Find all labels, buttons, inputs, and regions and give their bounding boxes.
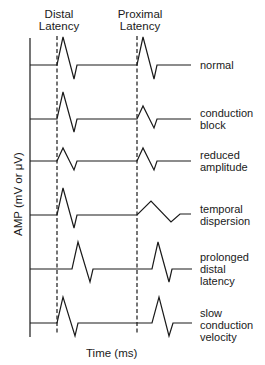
row-label-reduced-amplitude: reduced amplitude — [200, 149, 248, 173]
row-label-temporal-dispersion: temporal dispersion — [200, 203, 250, 227]
trace-slow-conduction-velocity — [30, 297, 192, 336]
distal-label-line1: Distal — [34, 8, 84, 20]
trace-reduced-amplitude — [30, 148, 191, 170]
row-label-line: dispersion — [200, 215, 250, 227]
row-label-line: conduction — [200, 319, 253, 331]
row-label-line: prolonged — [200, 251, 249, 263]
proximal-label-line1: Proximal — [110, 8, 170, 20]
row-label-prolonged-distal-latency: prolonged distal latency — [200, 251, 249, 287]
row-label-slow-conduction-velocity: slow conduction velocity — [200, 307, 253, 343]
trace-temporal-dispersion — [30, 188, 191, 228]
distal-latency-label: Distal Latency — [34, 8, 84, 32]
row-label-line: reduced — [200, 149, 248, 161]
distal-label-line2: Latency — [34, 20, 84, 32]
row-label-line: block — [200, 119, 253, 131]
row-label-line: normal — [200, 59, 234, 71]
trace-normal — [30, 37, 191, 79]
row-label-conduction-block: conduction block — [200, 107, 253, 131]
row-label-line: amplitude — [200, 161, 248, 173]
row-label-line: temporal — [200, 203, 250, 215]
row-label-line: conduction — [200, 107, 253, 119]
trace-conduction-block — [30, 92, 191, 132]
row-label-line: distal — [200, 263, 249, 275]
proximal-label-line2: Latency — [110, 20, 170, 32]
row-label-normal: normal — [200, 59, 234, 71]
trace-prolonged-distal-latency — [30, 242, 192, 282]
x-axis-label: Time (ms) — [86, 347, 137, 359]
row-label-line: latency — [200, 275, 249, 287]
proximal-latency-label: Proximal Latency — [110, 8, 170, 32]
row-label-line: slow — [200, 307, 253, 319]
row-label-line: velocity — [200, 331, 253, 343]
y-axis-label: AMP (mV or μV) — [12, 144, 24, 244]
